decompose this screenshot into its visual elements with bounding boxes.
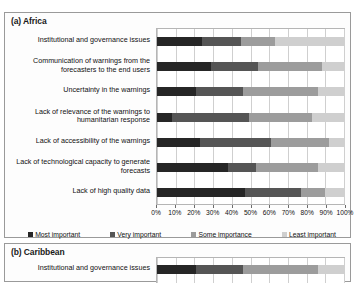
bar-segment-1 [196, 265, 243, 274]
bar-segment-3 [318, 265, 344, 274]
bar-row[interactable] [157, 163, 344, 172]
chart-legend: Most importantVery importantSome importa… [13, 231, 351, 238]
bar-segment-1 [228, 163, 256, 172]
x-tick-label: 90% [319, 209, 332, 216]
bar-segment-3 [325, 188, 344, 197]
legend-swatch-icon [28, 232, 33, 237]
bar-segment-0 [157, 188, 245, 197]
bar-segment-3 [318, 163, 344, 172]
legend-label: Very important [117, 231, 161, 238]
x-tick-label: 30% [206, 209, 219, 216]
legend-label: Least important [289, 231, 336, 238]
bar-segment-0 [157, 138, 200, 147]
x-tick-label: 40% [225, 209, 238, 216]
x-tick-label: 0% [151, 209, 161, 216]
bar-segment-2 [249, 113, 313, 122]
bar-rows-a [157, 29, 344, 204]
x-tick-label: 80% [301, 209, 314, 216]
plot-area-a [156, 28, 345, 205]
bar-segment-1 [211, 62, 258, 71]
bar-segment-2 [241, 37, 275, 46]
stacked-bar [157, 188, 344, 197]
x-tick-label: 100% [337, 209, 354, 216]
x-tick [156, 205, 157, 208]
bar-segment-2 [271, 138, 329, 147]
bar-segment-2 [256, 163, 318, 172]
bar-segment-2 [243, 87, 318, 96]
legend-item-2[interactable]: Some importance [191, 231, 251, 238]
x-tick [307, 205, 308, 208]
panel-caribbean: (b) Caribbean Institutional and governan… [4, 243, 351, 282]
stacked-bar [157, 87, 344, 96]
x-tick [232, 205, 233, 208]
bar-segment-1 [172, 113, 249, 122]
plot-area-b [156, 257, 345, 283]
bar-segment-0 [157, 87, 196, 96]
x-axis-a: 0%10%20%30%40%50%60%70%80%90%100% [156, 205, 345, 225]
x-tick-label: 50% [244, 209, 257, 216]
gridline [344, 29, 345, 204]
x-tick-label: 10% [168, 209, 181, 216]
gridline [344, 258, 345, 283]
panel-a-title: (a) Africa [11, 16, 47, 26]
bar-row[interactable] [157, 62, 344, 71]
legend-swatch-icon [282, 232, 287, 237]
panel-africa: (a) Africa Institutional and governance … [4, 12, 351, 238]
x-tick-label: 70% [282, 209, 295, 216]
x-tick [213, 205, 214, 208]
legend-item-3[interactable]: Least important [282, 231, 336, 238]
stacked-bar [157, 138, 344, 147]
category-label: Lack of technological capacity to genera… [9, 158, 152, 175]
bar-segment-3 [322, 62, 344, 71]
bar-rows-b [157, 258, 344, 283]
bar-segment-1 [200, 138, 271, 147]
legend-swatch-icon [110, 232, 115, 237]
category-label: Lack of accessibility of the warnings [9, 137, 152, 146]
bar-segment-3 [275, 37, 344, 46]
legend-label: Most important [35, 231, 80, 238]
category-label: Lack of relevance of the warnings to hum… [9, 108, 152, 125]
legend-label: Some importance [198, 231, 251, 238]
x-tick [251, 205, 252, 208]
bar-segment-1 [202, 37, 241, 46]
bar-row[interactable] [157, 138, 344, 147]
x-tick [288, 205, 289, 208]
x-tick-label: 20% [187, 209, 200, 216]
x-tick [269, 205, 270, 208]
category-label: Lack of high quality data [9, 187, 152, 196]
bar-segment-0 [157, 163, 228, 172]
bar-segment-3 [312, 113, 344, 122]
stacked-bar [157, 265, 344, 274]
bar-row[interactable] [157, 87, 344, 96]
legend-swatch-icon [191, 232, 196, 237]
x-tick [175, 205, 176, 208]
bar-segment-2 [243, 265, 318, 274]
bar-segment-2 [301, 188, 325, 197]
legend-item-1[interactable]: Very important [110, 231, 161, 238]
category-label: Communication of warnings from the forec… [9, 57, 152, 74]
bar-segment-0 [157, 37, 202, 46]
x-tick [326, 205, 327, 208]
bar-row[interactable] [157, 265, 344, 274]
bar-segment-1 [245, 188, 301, 197]
bar-row[interactable] [157, 188, 344, 197]
bar-row[interactable] [157, 113, 344, 122]
x-tick-label: 60% [263, 209, 276, 216]
bar-segment-2 [258, 62, 322, 71]
x-tick [345, 205, 346, 208]
panel-b-title: (b) Caribbean [11, 247, 64, 257]
stacked-bar [157, 37, 344, 46]
bar-segment-3 [329, 138, 344, 147]
bar-segment-1 [196, 87, 243, 96]
stacked-bar [157, 62, 344, 71]
x-tick [194, 205, 195, 208]
legend-item-0[interactable]: Most important [28, 231, 80, 238]
category-label: Institutional and governance issues [9, 36, 152, 45]
bar-row[interactable] [157, 37, 344, 46]
bar-segment-0 [157, 113, 172, 122]
category-label: Institutional and governance issues [9, 264, 152, 273]
stacked-bar [157, 113, 344, 122]
stacked-bar [157, 163, 344, 172]
bar-segment-0 [157, 62, 211, 71]
category-label: Uncertainty in the warnings [9, 86, 152, 95]
